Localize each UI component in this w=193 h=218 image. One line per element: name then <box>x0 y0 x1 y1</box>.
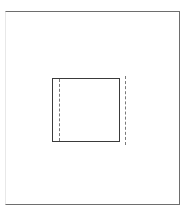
right-dashed-construction-line <box>125 76 126 145</box>
left-dashed-construction-line <box>59 79 60 141</box>
inner-square-outline <box>52 78 120 142</box>
diagram-canvas <box>0 0 193 218</box>
